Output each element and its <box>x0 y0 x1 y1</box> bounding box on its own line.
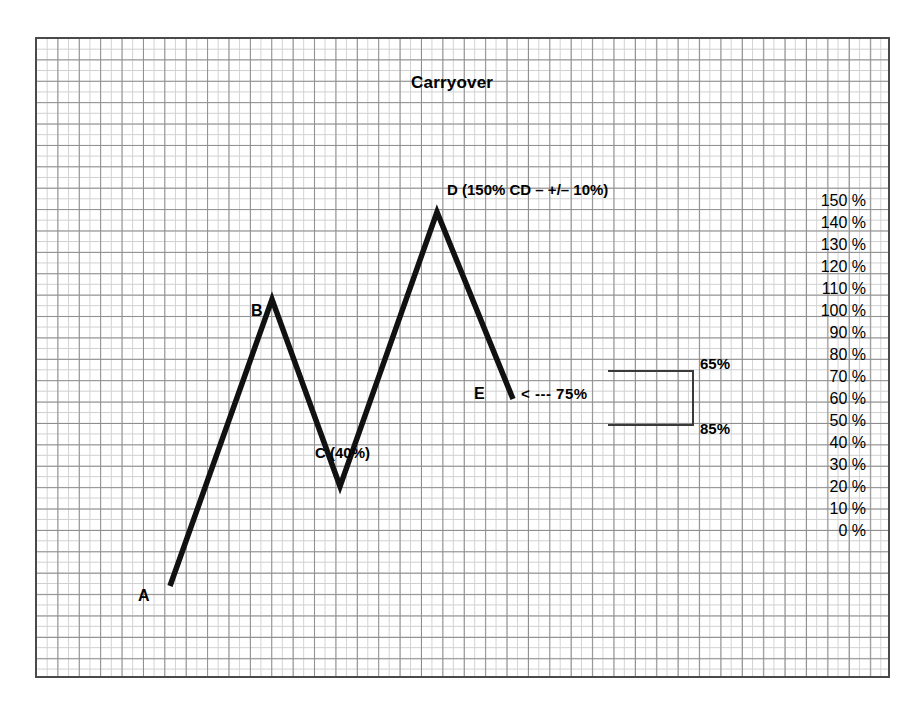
axis-tick-110: 110 % <box>800 281 866 297</box>
axis-tick-120: 120 % <box>800 259 866 275</box>
axis-tick-70: 70 % <box>800 369 866 385</box>
point-label-b: B <box>251 303 263 319</box>
graph-paper-frame <box>35 37 890 678</box>
axis-tick-30: 30 % <box>800 457 866 473</box>
axis-tick-150: 150 % <box>800 193 866 209</box>
point-label-e: E <box>474 386 485 402</box>
axis-tick-40: 40 % <box>800 435 866 451</box>
axis-tick-20: 20 % <box>800 479 866 495</box>
axis-tick-140: 140 % <box>800 215 866 231</box>
point-label-c: C (40%) <box>315 445 370 460</box>
axis-tick-0: 0 % <box>800 523 866 539</box>
axis-tick-50: 50 % <box>800 413 866 429</box>
point-label-a: A <box>138 588 150 604</box>
axis-tick-130: 130 % <box>800 237 866 253</box>
bracket-lower-value: 85% <box>700 421 730 436</box>
axis-tick-100: 100 % <box>800 303 866 319</box>
axis-tick-80: 80 % <box>800 347 866 363</box>
bracket-upper-value: 65% <box>700 356 730 371</box>
axis-tick-60: 60 % <box>800 391 866 407</box>
axis-tick-90: 90 % <box>800 325 866 341</box>
point-label-d: D (150% CD – +/– 10%) <box>447 182 608 197</box>
axis-tick-10: 10 % <box>800 501 866 517</box>
annotation-arrow-75: < --- 75% <box>521 386 588 401</box>
chart-page: Carryover A B C (40%) D (150% CD – +/– 1… <box>0 0 921 711</box>
chart-title: Carryover <box>411 74 493 91</box>
